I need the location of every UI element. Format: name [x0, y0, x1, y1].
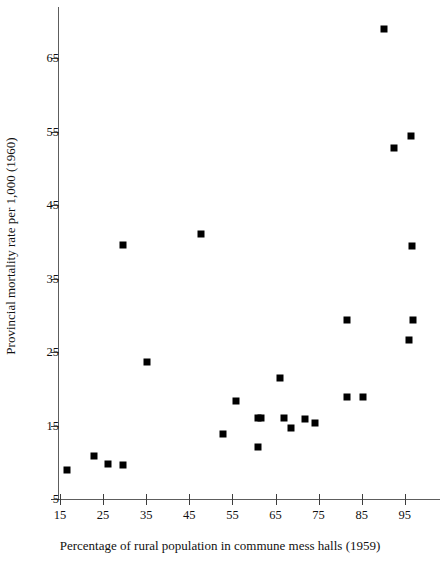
- y-tick-label: 15: [0, 420, 59, 432]
- y-tick-label-text: 5: [31, 493, 59, 505]
- data-point: [232, 397, 239, 404]
- data-point: [311, 420, 318, 427]
- y-tick-label: 55: [0, 126, 59, 138]
- data-point: [343, 316, 350, 323]
- data-point: [409, 316, 416, 323]
- data-point: [91, 453, 98, 460]
- data-point: [144, 358, 151, 365]
- data-point: [381, 25, 388, 32]
- x-tick-label-text: 65: [256, 508, 296, 522]
- x-tick-label-text: 25: [83, 508, 123, 522]
- y-tick-label: 5: [0, 493, 59, 505]
- data-point: [406, 337, 413, 344]
- data-point: [63, 467, 70, 474]
- data-point: [119, 462, 126, 469]
- data-point: [344, 393, 351, 400]
- y-tick-label: 65: [0, 52, 59, 64]
- y-axis-title-text: Provincial mortality rate per 1,000 (196…: [3, 137, 19, 354]
- data-point: [105, 460, 112, 467]
- x-tick-label-text: 35: [126, 508, 166, 522]
- x-tick-label-text: 55: [212, 508, 252, 522]
- x-tick-label-text: 15: [40, 508, 80, 522]
- y-tick-label-text: 65: [31, 52, 59, 64]
- y-tick-label: 45: [0, 199, 59, 211]
- y-tick-label: 25: [0, 346, 59, 358]
- y-tick-label-text: 55: [31, 126, 59, 138]
- plot-area: [58, 7, 440, 499]
- x-axis-title-text: Percentage of rural population in commun…: [0, 538, 440, 554]
- data-point: [257, 415, 264, 422]
- y-tick-label-text: 15: [31, 420, 59, 432]
- data-point: [197, 231, 204, 238]
- data-point: [254, 443, 261, 450]
- data-point: [277, 374, 284, 381]
- scatter-plot-figure: Provincial mortality rate per 1,000 (196…: [0, 0, 440, 569]
- data-point: [219, 431, 226, 438]
- y-tick-label-text: 35: [31, 273, 59, 285]
- y-tick-label-text: 45: [31, 199, 59, 211]
- x-tick-label-text: 45: [169, 508, 209, 522]
- data-point: [409, 243, 416, 250]
- data-point: [407, 132, 414, 139]
- data-point: [120, 242, 127, 249]
- data-point: [288, 424, 295, 431]
- x-tick-label-text: 95: [385, 508, 425, 522]
- x-tick-label-text: 85: [342, 508, 382, 522]
- y-tick-label: 35: [0, 273, 59, 285]
- x-axis-line: [58, 499, 440, 500]
- data-point: [359, 393, 366, 400]
- y-axis-title: Provincial mortality rate per 1,000 (196…: [2, 0, 20, 492]
- data-point: [281, 415, 288, 422]
- y-tick-label-text: 25: [31, 346, 59, 358]
- data-point: [301, 415, 308, 422]
- data-point: [391, 144, 398, 151]
- x-tick-label-text: 75: [299, 508, 339, 522]
